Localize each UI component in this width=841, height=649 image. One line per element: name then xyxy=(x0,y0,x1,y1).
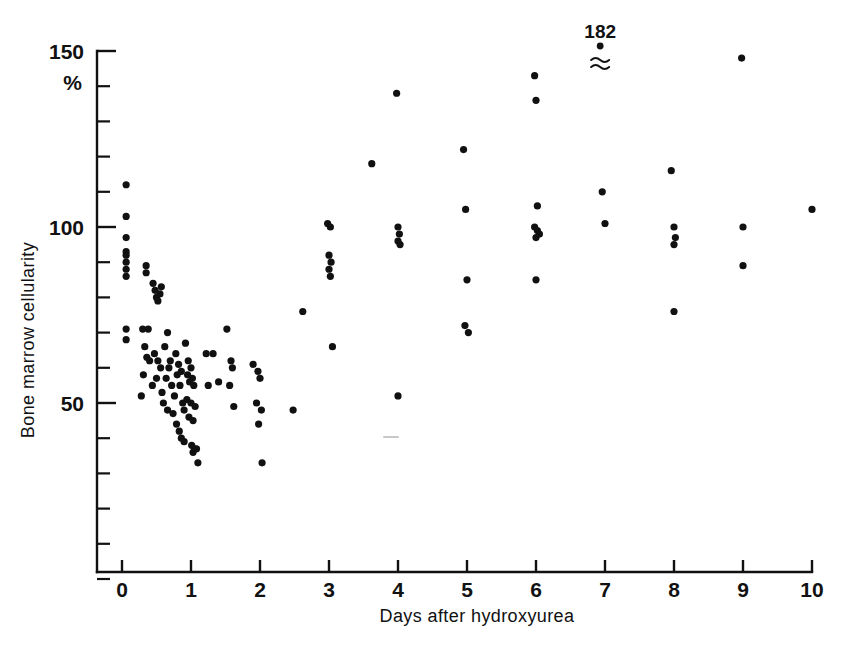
data-point xyxy=(189,417,196,424)
data-point xyxy=(531,72,538,79)
data-point xyxy=(161,343,168,350)
data-point xyxy=(192,403,199,410)
y-axis-ticks xyxy=(97,51,116,579)
annotation-layer: 182 xyxy=(584,21,616,69)
data-point xyxy=(123,259,130,266)
y-axis-title: Bone marrow cellularity xyxy=(18,242,38,438)
data-point xyxy=(163,375,170,382)
annotation-data-point xyxy=(597,43,604,50)
x-axis-tick-labels: 012345678910 xyxy=(116,578,824,601)
data-point xyxy=(327,223,334,230)
data-point xyxy=(327,259,334,266)
x-tick-label-5: 5 xyxy=(461,578,473,601)
x-axis-ticks xyxy=(122,560,812,572)
scan-artifact-smudge xyxy=(383,436,399,438)
data-point xyxy=(534,202,541,209)
data-point xyxy=(209,350,216,357)
data-point xyxy=(178,368,185,375)
data-point xyxy=(203,350,210,357)
data-point xyxy=(394,223,401,230)
data-point xyxy=(670,223,677,230)
data-point xyxy=(327,273,334,280)
data-point xyxy=(255,421,262,428)
data-point xyxy=(460,146,467,153)
data-point xyxy=(123,325,130,332)
data-point xyxy=(393,90,400,97)
chart-canvas: Bone marrow cellularity % 50100150 01234… xyxy=(0,0,841,649)
data-point xyxy=(739,262,746,269)
data-point xyxy=(223,325,230,332)
data-point xyxy=(461,322,468,329)
data-point xyxy=(164,329,171,336)
data-point xyxy=(140,371,147,378)
data-point-layer xyxy=(123,54,816,466)
data-point xyxy=(463,276,470,283)
x-tick-label-8: 8 xyxy=(668,578,680,601)
y-axis-tick-labels: 50100150 xyxy=(49,40,84,415)
data-point xyxy=(250,361,257,368)
x-tick-label-4: 4 xyxy=(392,578,404,601)
data-point xyxy=(229,364,236,371)
data-point xyxy=(205,382,212,389)
data-point xyxy=(123,266,130,273)
data-point xyxy=(123,181,130,188)
data-point xyxy=(187,364,194,371)
data-point xyxy=(181,438,188,445)
data-point xyxy=(165,364,172,371)
data-point xyxy=(154,357,161,364)
data-point xyxy=(290,406,297,413)
y-tick-label-100: 100 xyxy=(49,216,84,239)
data-point xyxy=(215,378,222,385)
data-point xyxy=(138,392,145,399)
data-point xyxy=(156,290,163,297)
data-point xyxy=(158,389,165,396)
data-point xyxy=(739,223,746,230)
data-point xyxy=(230,403,237,410)
data-point xyxy=(462,206,469,213)
data-point xyxy=(175,361,182,368)
data-point xyxy=(143,262,150,269)
y-tick-label-150: 150 xyxy=(49,40,84,63)
data-point xyxy=(396,241,403,248)
annotation-value-label: 182 xyxy=(584,21,616,42)
data-point xyxy=(185,357,192,364)
data-point xyxy=(670,241,677,248)
data-point xyxy=(151,350,158,357)
data-point xyxy=(143,269,150,276)
data-point xyxy=(258,406,265,413)
x-tick-label-0: 0 xyxy=(116,578,128,601)
x-tick-label-2: 2 xyxy=(254,578,266,601)
data-point xyxy=(465,329,472,336)
data-point xyxy=(670,308,677,315)
x-tick-label-6: 6 xyxy=(530,578,542,601)
data-point xyxy=(396,230,403,237)
data-point xyxy=(168,382,175,389)
y-axis-unit-label: % xyxy=(63,71,82,94)
data-point xyxy=(176,428,183,435)
data-point xyxy=(123,213,130,220)
data-point xyxy=(123,234,130,241)
y-tick-label-50: 50 xyxy=(61,392,84,415)
data-point xyxy=(123,336,130,343)
data-point xyxy=(394,392,401,399)
data-point xyxy=(146,357,153,364)
data-point xyxy=(738,54,745,61)
x-tick-label-9: 9 xyxy=(737,578,749,601)
axis-break-wave-icon xyxy=(591,58,609,62)
x-axis-title: Days after hydroxyurea xyxy=(380,606,575,626)
data-point xyxy=(173,421,180,428)
data-point xyxy=(194,459,201,466)
data-point xyxy=(227,357,234,364)
data-point xyxy=(169,410,176,417)
data-point xyxy=(256,375,263,382)
data-point xyxy=(253,399,260,406)
data-point xyxy=(172,350,179,357)
data-point xyxy=(808,206,815,213)
data-point xyxy=(254,368,261,375)
data-point xyxy=(149,382,156,389)
x-tick-label-7: 7 xyxy=(599,578,611,601)
data-point xyxy=(141,343,148,350)
data-point xyxy=(158,283,165,290)
data-point xyxy=(599,188,606,195)
data-point xyxy=(668,167,675,174)
